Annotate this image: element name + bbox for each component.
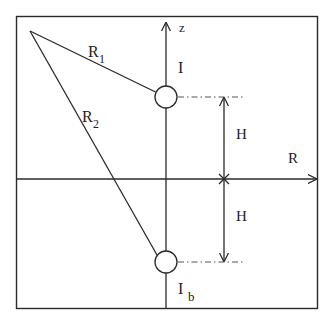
- image-current-label: I: [178, 280, 183, 297]
- image-conductor-circle: [155, 251, 177, 273]
- image-current-subscript: b: [188, 289, 195, 304]
- h-lower-label: H: [236, 208, 247, 224]
- r-axis-label: R: [288, 150, 298, 166]
- h-upper-label: H: [236, 126, 247, 142]
- r1-label: R: [88, 43, 99, 60]
- conductor-circle: [155, 86, 177, 108]
- r1-line: [30, 31, 156, 92]
- r2-line: [30, 31, 157, 255]
- r1-subscript: 1: [99, 52, 105, 66]
- r2-label: R: [82, 108, 93, 125]
- r2-subscript: 2: [93, 117, 99, 131]
- diagram-canvas: R 1 R 2 z I H H R I b: [0, 0, 330, 322]
- z-axis-label: z: [179, 20, 185, 35]
- current-label: I: [178, 59, 183, 76]
